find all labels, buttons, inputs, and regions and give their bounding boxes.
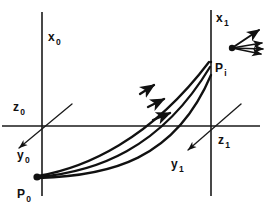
label-y1: y1: [171, 155, 183, 171]
arrowhead-middle: [148, 99, 164, 107]
trajectory-group: [38, 62, 211, 178]
label-z0: z0: [13, 98, 24, 114]
frame-1-axes: [120, 10, 260, 196]
label-z1: z1: [218, 131, 229, 147]
figure-canvas: x0 z0 y0 x1 z1 y1 P0 Pi: [0, 0, 267, 214]
fan-origin-dot: [229, 45, 235, 51]
diagram-svg: [0, 0, 267, 214]
label-x0: x0: [48, 28, 60, 44]
label-p0: P0: [17, 185, 30, 201]
trajectory-arrowheads: [140, 85, 170, 120]
trajectory-upper: [38, 62, 209, 176]
point-pi-dot: [210, 61, 212, 63]
velocity-fan: [229, 30, 263, 54]
label-pi: Pi: [215, 59, 226, 75]
arrowhead-upper: [140, 85, 154, 94]
label-x1: x1: [216, 9, 228, 25]
axis-z1-line: [188, 104, 241, 150]
label-y0: y0: [17, 146, 29, 162]
point-p0-dot: [33, 173, 40, 180]
